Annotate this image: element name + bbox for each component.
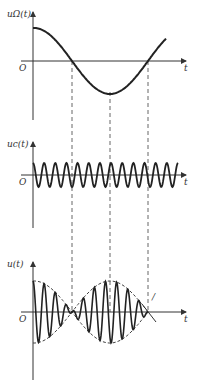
envelope-extension-mark: / bbox=[151, 292, 156, 302]
y-axis-label: u(t) bbox=[7, 259, 24, 269]
t-axis-label: t bbox=[184, 314, 188, 324]
t-axis-label: t bbox=[184, 177, 188, 187]
y-axis-label: uΩ(t) bbox=[7, 9, 31, 19]
panel-modulating: uΩ(t) t O bbox=[7, 9, 188, 120]
panel-carrier: uc(t) t O bbox=[7, 139, 188, 228]
y-axis-label: uc(t) bbox=[7, 139, 29, 149]
envelope-extension bbox=[142, 304, 156, 322]
origin-label: O bbox=[19, 177, 27, 187]
origin-label: O bbox=[19, 314, 27, 324]
modulation-diagram: uΩ(t) t O uc(t) t O u(t) t O / bbox=[0, 0, 198, 392]
t-axis-label: t bbox=[184, 63, 188, 73]
panel-dsb: u(t) t O / bbox=[7, 259, 188, 380]
origin-label: O bbox=[19, 63, 27, 73]
